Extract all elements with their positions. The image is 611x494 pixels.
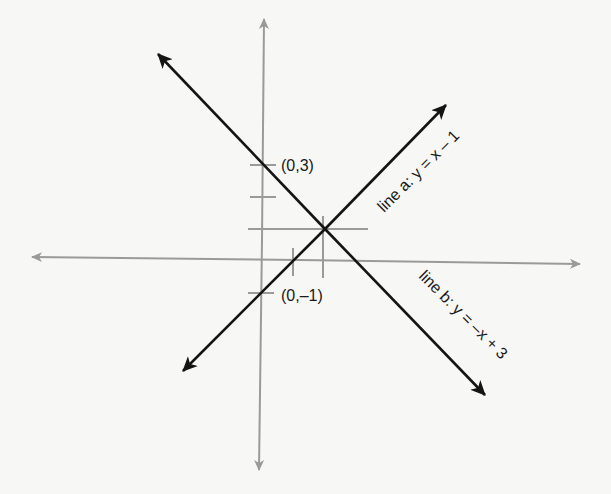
label-point-0-neg1: (0,–1) bbox=[281, 287, 323, 304]
y-axis bbox=[259, 19, 264, 470]
line-b bbox=[158, 54, 485, 395]
label-point-0-3: (0,3) bbox=[281, 157, 314, 174]
diagram-svg: (0,3) (0,–1) line a: y = x – 1 line b: y… bbox=[0, 0, 611, 494]
label-line-a: line a: y = x – 1 bbox=[374, 127, 463, 216]
line-a bbox=[183, 105, 446, 371]
label-line-b: line b: y = –x + 3 bbox=[416, 267, 511, 362]
x-axis bbox=[32, 257, 580, 264]
coordinate-plane-diagram: (0,3) (0,–1) line a: y = x – 1 line b: y… bbox=[0, 0, 611, 494]
